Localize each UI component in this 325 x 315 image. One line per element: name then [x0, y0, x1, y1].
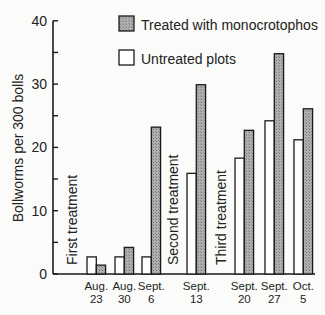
bar-treated	[196, 85, 205, 274]
legend-label-treated: Treated with monocrotophos	[141, 17, 318, 33]
x-tick-label: 5	[300, 293, 306, 305]
bar-untreated	[87, 257, 96, 274]
bar-treated	[303, 109, 312, 274]
bar-treated	[244, 130, 253, 274]
y-tick-label: 40	[31, 13, 47, 29]
x-tick-label: 27	[268, 293, 281, 305]
x-tick-label: 23	[90, 293, 103, 305]
bar-treated	[96, 265, 105, 274]
y-tick-label: 30	[31, 76, 47, 92]
x-tick-label: Oct.	[293, 280, 314, 292]
legend-swatch-treated	[119, 16, 134, 31]
x-tick-label: Sept.	[183, 280, 210, 292]
bars	[87, 54, 313, 274]
x-tick-label: Aug.	[112, 280, 136, 292]
y-tick-label: 0	[39, 266, 47, 282]
bar-untreated	[265, 121, 274, 274]
x-tick-label: 30	[118, 293, 131, 305]
chart: 010203040 Bollworms per 300 bollsAug.23A…	[0, 0, 325, 315]
y-tick-label: 10	[31, 203, 47, 219]
treatment-annotation: Third treatment	[213, 170, 229, 265]
legend-swatch-untreated	[119, 50, 134, 65]
bar-treated	[124, 247, 133, 274]
treatment-annotation: Second treatment	[165, 154, 181, 265]
bar-untreated	[142, 257, 151, 274]
x-tick-label: Sept.	[261, 280, 288, 292]
x-tick-label: Sept.	[231, 280, 258, 292]
bar-untreated	[235, 158, 244, 274]
x-tick-label: Aug.	[84, 280, 108, 292]
bar-untreated	[187, 173, 196, 274]
x-tick-label: Sept.	[138, 280, 165, 292]
y-axis-label: Bollworms per 300 bolls	[10, 74, 26, 223]
bar-untreated	[294, 140, 303, 274]
treatment-annotation: First treatment	[64, 175, 80, 265]
x-tick-label: 6	[148, 293, 154, 305]
x-tick-label: 13	[190, 293, 203, 305]
x-tick-label: 20	[238, 293, 251, 305]
bar-untreated	[115, 257, 124, 274]
legend-label-untreated: Untreated plots	[141, 51, 236, 67]
bar-treated	[151, 127, 160, 274]
bar-treated	[274, 54, 283, 274]
y-tick-label: 20	[31, 139, 47, 155]
